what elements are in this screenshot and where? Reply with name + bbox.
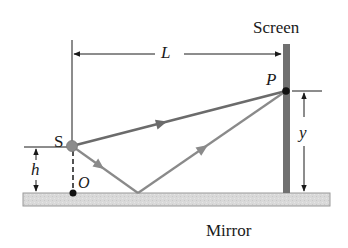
lloyds-mirror-diagram: Screen Mirror S P O L h y (0, 0, 348, 248)
height-h-label: h (31, 161, 40, 178)
point-p-label: P (266, 71, 276, 88)
mirror (23, 193, 330, 206)
point-p-dot (282, 87, 290, 95)
direct-ray (72, 91, 286, 146)
height-y-label: y (299, 124, 307, 141)
origin-label: O (78, 175, 90, 191)
distance-L-dimension (72, 40, 281, 141)
height-y-dimension (292, 91, 322, 191)
screen (283, 44, 290, 193)
screen-label: Screen (253, 19, 299, 36)
origin-dot (70, 190, 77, 197)
reflected-ray (72, 91, 286, 193)
diagram-canvas (0, 0, 348, 248)
mirror-label: Mirror (206, 222, 251, 239)
source-dot (67, 141, 78, 152)
source-label: S (54, 133, 63, 150)
distance-L-label: L (161, 44, 170, 61)
